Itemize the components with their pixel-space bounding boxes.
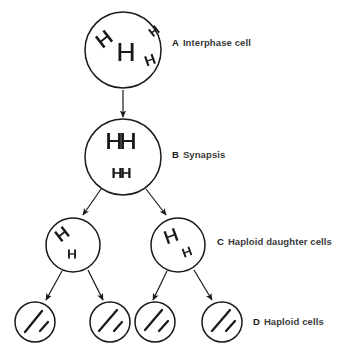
stage-label-a: AInterphase cell (172, 38, 251, 48)
arrow-c-left-to-d-2 (88, 270, 103, 300)
stage-letter-a: A (172, 37, 179, 48)
stage-caption-a: Interphase cell (183, 37, 251, 48)
cell-d-1 (15, 302, 55, 342)
cell-c-2 (151, 218, 205, 272)
arrow-c-left-to-d-1 (46, 271, 62, 300)
arrow-c-right-to-d-3 (153, 271, 167, 300)
cell-membrane (151, 218, 205, 272)
cell-d-2 (90, 302, 130, 342)
cell-membrane (90, 302, 130, 342)
arrow-b-to-c-right (146, 189, 166, 215)
cell-membrane (85, 119, 161, 195)
cell-d-3 (135, 302, 175, 342)
cell-a-1 (85, 12, 161, 88)
stage-caption-d: Haploid cells (264, 316, 324, 327)
stage-letter-c: C (217, 236, 224, 247)
cell-d-4 (202, 302, 242, 342)
cell-membrane (46, 218, 100, 272)
stage-letter-b: B (172, 149, 179, 160)
cell-membrane (135, 302, 175, 342)
cell-c-1 (46, 218, 100, 272)
diagram-canvas (0, 0, 343, 352)
meiosis-diagram: AInterphase cell BSynapsis CHaploid daug… (0, 0, 343, 352)
stage-letter-d: D (253, 316, 260, 327)
stage-label-c: CHaploid daughter cells (217, 237, 332, 247)
stage-caption-c: Haploid daughter cells (228, 236, 332, 247)
arrow-b-to-c-left (83, 189, 101, 215)
cell-membrane (85, 12, 161, 88)
stage-label-b: BSynapsis (172, 150, 225, 160)
arrow-c-right-to-d-4 (194, 270, 212, 300)
stage-label-d: DHaploid cells (253, 317, 324, 327)
cell-b-1 (85, 119, 161, 195)
cell-membrane (202, 302, 242, 342)
stage-caption-b: Synapsis (183, 149, 226, 160)
